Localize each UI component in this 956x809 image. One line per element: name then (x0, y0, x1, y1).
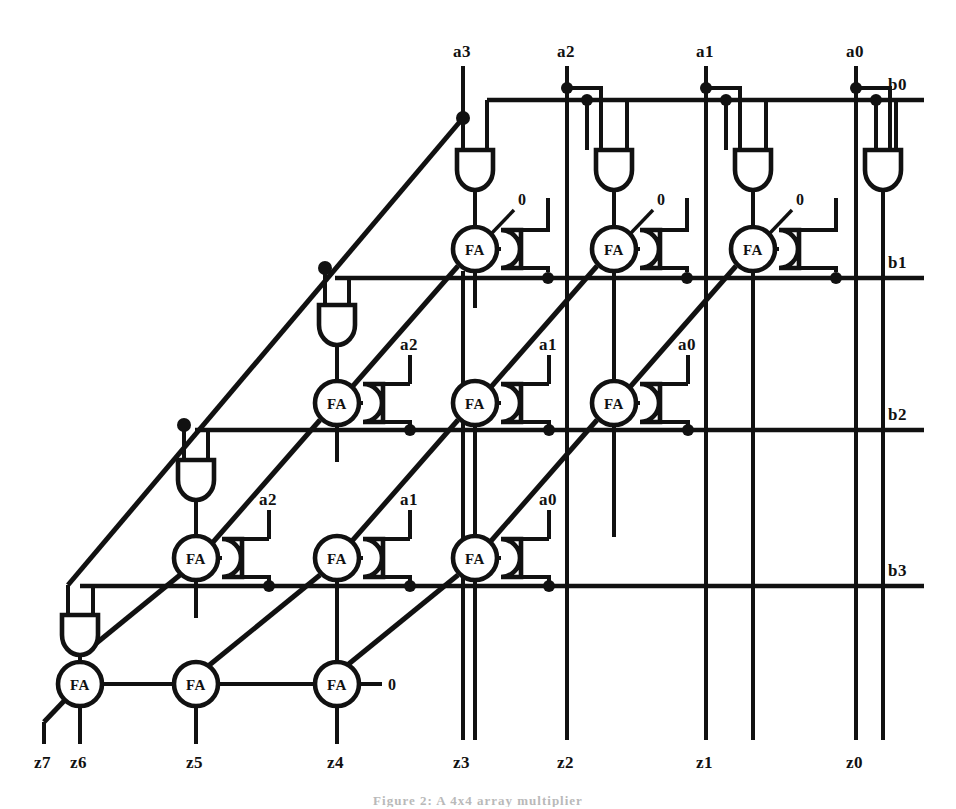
bus-row-b3 (80, 580, 924, 592)
wire-carry-r1c2 (484, 266, 597, 395)
junction-b3-c3 (543, 580, 555, 592)
label-b2: b2 (888, 405, 907, 424)
wire-carry-r1c1 (345, 266, 458, 395)
fa-label: FA (604, 396, 624, 412)
and-gate-row1-c2 (640, 230, 660, 268)
label-a0-row3: a0 (539, 490, 557, 509)
label-z5: z5 (186, 753, 203, 772)
wire-r1c3-and-in-top (799, 198, 836, 230)
fa-label: FA (465, 396, 485, 412)
top-input-wires (456, 66, 924, 740)
junction-dot-a0 (850, 82, 862, 94)
figure-caption: Figure 2: A 4x4 array multiplier (0, 793, 956, 807)
and-gate-row2-c1 (363, 384, 383, 422)
label-zero-r1c2: 0 (657, 191, 665, 208)
label-a1-row3: a1 (400, 490, 418, 509)
label-z3: z3 (453, 753, 470, 772)
and-gate-row3-c2 (363, 539, 383, 577)
junction-dot-b0-a1 (720, 94, 732, 106)
fa-label: FA (604, 242, 624, 258)
junction-dot-a1 (700, 82, 712, 94)
label-a1-row2: a1 (539, 335, 557, 354)
and-gate-row1-c1 (501, 230, 521, 268)
fa-label: FA (327, 677, 347, 693)
label-z2: z2 (557, 753, 574, 772)
wire-carry-r3c3 (345, 575, 458, 667)
junction-b3-c2 (404, 580, 416, 592)
fa-label: FA (186, 677, 206, 693)
label-z1: z1 (696, 753, 713, 772)
wire-carry-r3c2 (207, 575, 320, 667)
label-a0-top: a0 (846, 42, 864, 61)
a3-diagonal-distribution (68, 118, 463, 600)
wire-carry-r2c2 (345, 420, 458, 549)
wire-r1c2-and-in-bot (660, 268, 687, 272)
label-zero-r1c3: 0 (796, 191, 804, 208)
label-a2-row2: a2 (400, 335, 418, 354)
junction-dot-b0-a0 (870, 94, 882, 106)
and-gate-row3-c1 (222, 539, 242, 577)
label-zero-r1c1: 0 (518, 191, 526, 208)
fa-label: FA (327, 396, 347, 412)
and-gate-a1b0 (735, 150, 771, 190)
and-gate-a3b0 (457, 150, 493, 190)
and-gate-a3b2 (178, 460, 214, 500)
junction-b2-c2 (543, 424, 555, 436)
schematic-svg: FA FA FA (0, 0, 956, 809)
label-z0: z0 (846, 753, 863, 772)
and-gate-a3b1 (319, 305, 355, 345)
junction-b1-c2 (681, 272, 693, 284)
wire-r1c1-and-in-bot (521, 268, 548, 272)
label-a0-row2: a0 (678, 335, 696, 354)
and-gate-row1-c3 (779, 230, 799, 268)
label-a3-top: a3 (453, 42, 471, 61)
fa-label: FA (70, 677, 90, 693)
fa-label: FA (465, 551, 485, 567)
and-gate-row2-c3 (640, 384, 660, 422)
junction-b2-c1 (404, 424, 416, 436)
junction-dot-b0-a2 (581, 94, 593, 106)
wire-b3-to-and-r4 (80, 586, 93, 615)
fa-label: FA (465, 242, 485, 258)
and-gate-row3-c3 (501, 539, 521, 577)
label-b1: b1 (888, 253, 907, 272)
label-zero-r4: 0 (388, 676, 396, 693)
wire-carry-r1c3 (623, 266, 736, 395)
wire-b1-to-and-r2 (335, 278, 349, 305)
wire-z7-carry-out (44, 701, 64, 722)
label-a2-top: a2 (557, 42, 575, 61)
junction-b1-c3 (830, 272, 842, 284)
junction-b3-c1 (263, 580, 275, 592)
wire-carry-r2c1 (207, 420, 320, 549)
fa-label: FA (327, 551, 347, 567)
wire-carry-r2c3 (484, 420, 597, 549)
and-gate-a2b0 (596, 150, 632, 190)
junction-b2-c3 (682, 424, 694, 436)
array-multiplier-diagram: FA FA FA (0, 0, 956, 809)
fa-label: FA (186, 551, 206, 567)
label-b0: b0 (888, 75, 907, 94)
label-a2-row3: a2 (259, 490, 277, 509)
label-b3: b3 (888, 561, 907, 580)
wire-r1c3-and-in-bot (799, 268, 836, 272)
and-gate-a0b0 (865, 150, 901, 190)
bus-row-b1 (335, 272, 924, 284)
label-z7: z7 (34, 753, 51, 772)
and-gate-a3b3 (62, 615, 98, 655)
junction-b1-c1 (542, 272, 554, 284)
label-z4: z4 (327, 753, 344, 772)
label-z6: z6 (70, 753, 87, 772)
and-gate-row2-c2 (501, 384, 521, 422)
fa-label: FA (743, 242, 763, 258)
junction-dot-a2 (561, 82, 573, 94)
label-a1-top: a1 (696, 42, 714, 61)
